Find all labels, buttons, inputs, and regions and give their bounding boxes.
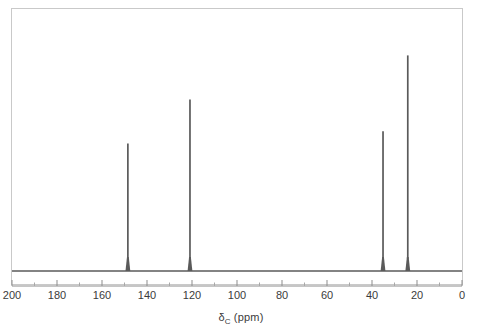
axis-title-units: (ppm): [234, 311, 264, 323]
nmr-spectrum-figure: 200180160140120100806040200 δC (ppm): [0, 0, 482, 335]
x-tick-label-0: 0: [459, 289, 465, 301]
x-tick-label-100: 100: [228, 289, 246, 301]
spectrum-trace: [12, 55, 462, 271]
peak-35-foot: [381, 257, 386, 271]
x-axis: [12, 280, 462, 286]
x-tick-label-140: 140: [138, 289, 156, 301]
x-tick-label-200: 200: [3, 289, 21, 301]
x-tick-label-40: 40: [366, 289, 378, 301]
x-axis-title: δC (ppm): [0, 311, 482, 326]
peak-121-foot: [188, 257, 193, 271]
x-axis-tick-labels: 200180160140120100806040200: [3, 289, 465, 301]
spectrum-canvas: 200180160140120100806040200: [0, 0, 482, 335]
x-tick-label-20: 20: [411, 289, 423, 301]
x-tick-label-60: 60: [321, 289, 333, 301]
x-tick-label-160: 160: [93, 289, 111, 301]
x-tick-label-120: 120: [183, 289, 201, 301]
peak-148-foot: [125, 257, 130, 271]
peak-24-foot: [405, 257, 410, 271]
x-tick-label-80: 80: [276, 289, 288, 301]
x-tick-label-180: 180: [48, 289, 66, 301]
axis-title-subscript: C: [225, 317, 231, 326]
